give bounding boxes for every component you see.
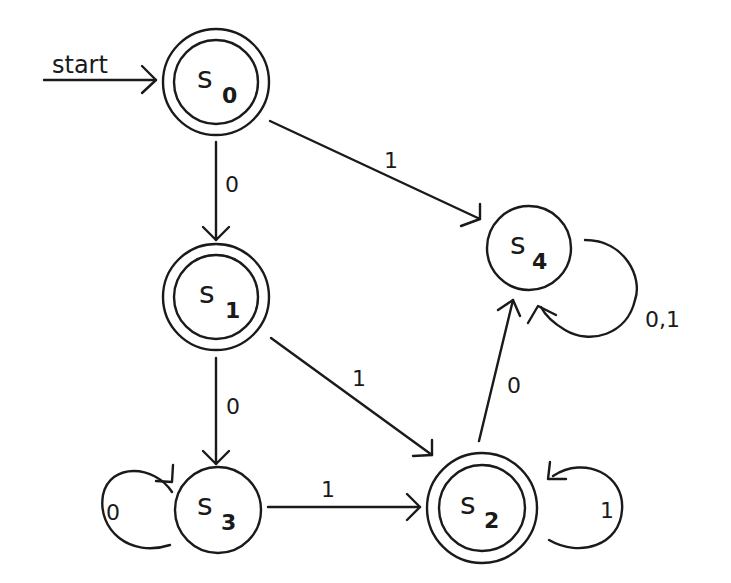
state-s4[interactable]: s 4	[487, 206, 571, 290]
state-s3-subscript: 3	[221, 510, 236, 535]
transition-s0-s1-label: 0	[225, 172, 239, 197]
transition-s2-s4-label: 0	[507, 373, 521, 398]
start-label: start	[52, 51, 108, 79]
state-s4-name: s	[510, 226, 526, 261]
state-s4-subscript: 4	[532, 249, 547, 274]
transition-s1-s2: 1	[271, 338, 432, 456]
transition-s0-s4-label: 1	[384, 148, 398, 173]
transition-s3-s2: 1	[268, 477, 420, 520]
state-s1-subscript: 1	[225, 298, 240, 323]
transition-s2-s4: 0	[479, 300, 521, 441]
transition-s1-s3-label: 0	[226, 394, 240, 419]
state-s1-name: s	[199, 275, 215, 310]
state-s2-name: s	[460, 486, 476, 521]
transition-s1-s2-label: 1	[352, 366, 366, 391]
state-s2[interactable]: s 2	[427, 453, 537, 563]
state-s2-subscript: 2	[484, 508, 499, 533]
transition-s3-self-loop-label: 0	[106, 500, 120, 525]
transition-s0-s1: 0	[203, 142, 239, 240]
state-s0[interactable]: s 0	[163, 29, 269, 135]
transition-s2-self-loop-label: 1	[600, 498, 614, 523]
start-arrow: start	[44, 51, 156, 93]
state-s3[interactable]: s 3	[175, 467, 261, 553]
transition-s3-self-loop: 0	[102, 465, 173, 548]
state-s3-name: s	[197, 487, 213, 522]
transition-s4-self-loop-label: 0,1	[645, 307, 680, 332]
transition-s4-self-loop: 0,1	[528, 240, 680, 337]
state-s0-name: s	[197, 60, 213, 95]
transition-s0-s4: 1	[270, 121, 480, 226]
state-s0-subscript: 0	[222, 83, 237, 108]
transition-s1-s3: 0	[203, 358, 240, 464]
state-s1[interactable]: s 1	[163, 244, 269, 350]
transition-s2-self-loop: 1	[548, 462, 622, 548]
transition-s3-s2-label: 1	[321, 477, 335, 502]
state-diagram: start s 0 s 1 s 2 s 3	[0, 0, 731, 583]
